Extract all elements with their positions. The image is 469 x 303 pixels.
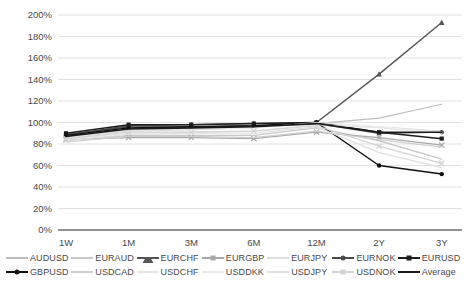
y-axis-tick-label: 100% [28, 117, 53, 128]
x-axis-tick-label: 12M [307, 237, 326, 248]
legend-row: GBPUSDUSDCADUSDCHFUSDDKKUSDJPYUSDNOKAver… [6, 266, 463, 277]
legend-item-usdcad[interactable]: USDCAD [71, 266, 136, 277]
legend-item-euraud[interactable]: EURAUD [71, 252, 136, 263]
legend-item-eurusd[interactable]: EURUSD [398, 252, 463, 263]
x-axis-tick-label: 3M [185, 237, 198, 248]
y-axis-tick-label: 140% [28, 74, 53, 85]
legend-swatch-icon [267, 266, 289, 277]
legend-swatch-icon [71, 266, 93, 277]
legend-item-eurchf[interactable]: EURCHF [137, 252, 202, 263]
y-axis-tick-label: 80% [33, 138, 53, 149]
legend-swatch-icon [137, 252, 159, 263]
x-axis-tick-label: 2Y [373, 237, 385, 248]
legend-item-eurgbp[interactable]: EURGBP [202, 252, 267, 263]
legend-item-usdnok[interactable]: USDNOK [332, 266, 397, 277]
chart-legend: AUDUSDEURAUDEURCHFEURGBPEURJPYEURNOKEURU… [0, 252, 469, 277]
legend-swatch-icon [202, 252, 224, 263]
legend-label: GBPUSD [30, 267, 69, 277]
x-axis-tick-label: 6M [247, 237, 260, 248]
fx-volatility-line-chart: 0%20%40%60%80%100%120%140%160%180%200%1W… [0, 0, 469, 303]
legend-swatch-icon [267, 252, 289, 263]
legend-swatch-icon [398, 252, 420, 263]
legend-label: EURAUD [95, 253, 134, 263]
legend-label: USDJPY [291, 267, 327, 277]
chart-plot-area: 0%20%40%60%80%100%120%140%160%180%200%1W… [0, 0, 469, 252]
legend-swatch-icon [71, 252, 93, 263]
legend-label: USDCAD [95, 267, 134, 277]
legend-label: EURNOK [356, 253, 395, 263]
legend-swatch-icon [332, 266, 354, 277]
legend-item-usdjpy[interactable]: USDJPY [267, 266, 332, 277]
y-axis-tick-label: 160% [28, 52, 53, 63]
legend-label: EURJPY [291, 253, 327, 263]
legend-item-average[interactable]: Average [398, 266, 463, 277]
legend-swatch-icon [137, 266, 159, 277]
legend-label: USDNOK [356, 267, 395, 277]
series-line-eurchf [66, 23, 442, 136]
legend-item-gbpusd[interactable]: GBPUSD [6, 266, 71, 277]
legend-item-usddkk[interactable]: USDDKK [202, 266, 267, 277]
y-axis-tick-label: 40% [33, 181, 53, 192]
legend-item-usdchf[interactable]: USDCHF [137, 266, 202, 277]
legend-swatch-icon [6, 252, 28, 263]
legend-swatch-icon [398, 266, 420, 277]
legend-label: USDCHF [161, 267, 199, 277]
y-axis-tick-label: 200% [28, 9, 53, 20]
x-axis-tick-label: 1M [122, 237, 135, 248]
data-point-marker [377, 163, 381, 167]
legend-swatch-icon [332, 252, 354, 263]
x-axis-tick-label: 1W [59, 237, 73, 248]
legend-label: EURCHF [161, 253, 199, 263]
legend-label: Average [422, 267, 456, 277]
legend-label: USDDKK [226, 267, 264, 277]
legend-label: AUDUSD [30, 253, 69, 263]
y-axis-tick-label: 60% [33, 160, 53, 171]
legend-row: AUDUSDEURAUDEURCHFEURGBPEURJPYEURNOKEURU… [6, 252, 463, 263]
legend-item-eurnok[interactable]: EURNOK [332, 252, 397, 263]
y-axis-tick-label: 0% [38, 224, 52, 235]
data-point-marker [440, 137, 444, 141]
legend-swatch-icon [6, 266, 28, 277]
data-point-marker [440, 172, 444, 176]
y-axis-tick-label: 120% [28, 95, 53, 106]
legend-item-eurjpy[interactable]: EURJPY [267, 252, 332, 263]
legend-swatch-icon [202, 266, 224, 277]
x-axis-tick-label: 3Y [436, 237, 448, 248]
y-axis-tick-label: 20% [33, 203, 53, 214]
legend-label: EURGBP [226, 253, 265, 263]
data-point-marker [439, 20, 445, 25]
legend-label: EURUSD [422, 253, 461, 263]
legend-item-audusd[interactable]: AUDUSD [6, 252, 71, 263]
y-axis-tick-label: 180% [28, 31, 53, 42]
